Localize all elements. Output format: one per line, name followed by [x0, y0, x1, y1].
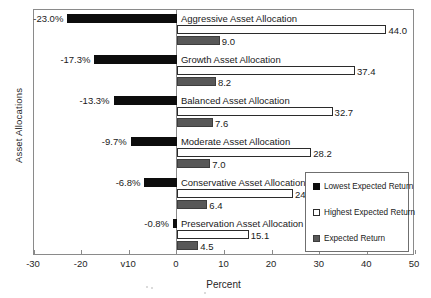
bar-value-label: 37.4	[357, 67, 376, 77]
legend-item: Expected Return	[313, 234, 385, 243]
bar-value-label: 7.0	[212, 160, 225, 170]
x-axis-tick-label: 0	[156, 258, 196, 269]
bar-group: Growth Asset Allocation-17.3%37.48.2	[34, 51, 413, 92]
bar-value-label: -0.8%	[144, 219, 169, 229]
x-axis-tick-label: 40	[346, 258, 386, 269]
bar-expected-return	[177, 77, 216, 86]
bar-value-label: -6.8%	[116, 178, 141, 188]
bar-value-label: 8.2	[218, 78, 231, 88]
x-axis-tick-label: -30	[13, 258, 53, 269]
bar-lowest-expected-return	[94, 55, 176, 64]
bar-expected-return	[177, 159, 210, 168]
bar-lowest-expected-return	[131, 137, 177, 146]
x-axis-tick-label: 10	[204, 258, 244, 269]
scan-artifact	[204, 292, 206, 294]
bar-group-label: Preservation Asset Allocation	[181, 218, 304, 229]
bar-highest-expected-return	[177, 107, 333, 116]
bar-expected-return	[177, 36, 220, 45]
legend-swatch-icon	[313, 183, 320, 190]
legend-swatch-icon	[313, 235, 320, 242]
bar-group: Balanced Asset Allocation-13.3%32.77.6	[34, 92, 413, 133]
bar-value-label: -17.3%	[60, 55, 90, 65]
bar-highest-expected-return	[177, 66, 355, 75]
bar-expected-return	[177, 118, 213, 127]
x-axis-tick-label: 50	[394, 258, 431, 269]
bar-group-label: Conservative Asset Allocation	[181, 177, 306, 188]
legend-swatch-icon	[313, 209, 320, 216]
bar-value-label: -13.3%	[79, 96, 109, 106]
bar-lowest-expected-return	[144, 178, 176, 187]
bar-value-label: -23.0%	[33, 14, 63, 24]
scan-artifact	[151, 287, 153, 289]
x-axis-tick	[415, 250, 416, 254]
bar-value-label: 44.0	[388, 26, 407, 36]
bar-group: Moderate Asset Allocation-9.7%28.27.0	[34, 133, 413, 174]
bar-value-label: 15.1	[251, 231, 270, 241]
bar-value-label: 7.6	[215, 119, 228, 129]
legend-item-label: Lowest Expected Return	[324, 182, 413, 191]
bar-value-label: 4.5	[200, 242, 213, 252]
bar-value-label: -9.7%	[102, 137, 127, 147]
y-axis-title: Asset Allocations	[13, 56, 24, 196]
bar-lowest-expected-return	[173, 219, 177, 228]
bar-value-label: 6.4	[209, 201, 222, 211]
bar-highest-expected-return	[177, 25, 387, 34]
bar-highest-expected-return	[177, 230, 249, 239]
bar-expected-return	[177, 241, 198, 250]
x-axis-tick-label: -20	[61, 258, 101, 269]
x-axis-tick-label: 30	[299, 258, 339, 269]
bar-value-label: 28.2	[313, 149, 332, 159]
bar-highest-expected-return	[177, 148, 311, 157]
bar-group-label: Balanced Asset Allocation	[181, 95, 290, 106]
bar-chart: Asset Allocations Percent Aggressive Ass…	[0, 0, 431, 298]
x-axis-tick-label: 20	[251, 258, 291, 269]
legend-item-label: Highest Expected Return	[324, 208, 415, 217]
bar-group-label: Moderate Asset Allocation	[181, 136, 290, 147]
legend-item-label: Expected Return	[324, 234, 385, 243]
x-axis-tick-label: v10	[108, 258, 148, 269]
bar-value-label: 32.7	[335, 108, 354, 118]
x-axis-title: Percent	[33, 279, 414, 290]
bar-lowest-expected-return	[114, 96, 177, 105]
bar-expected-return	[177, 200, 207, 209]
legend-item: Highest Expected Return	[313, 208, 415, 217]
legend-item: Lowest Expected Return	[313, 182, 413, 191]
bar-value-label: 9.0	[222, 37, 235, 47]
bar-group: Aggressive Asset Allocation-23.0%44.09.0	[34, 10, 413, 51]
bar-group-label: Growth Asset Allocation	[181, 54, 281, 65]
bar-group-label: Aggressive Asset Allocation	[181, 13, 297, 24]
bar-highest-expected-return	[177, 189, 293, 198]
scan-artifact	[146, 286, 148, 288]
bar-lowest-expected-return	[67, 14, 177, 23]
chart-legend: Lowest Expected ReturnHighest Expected R…	[305, 172, 409, 252]
